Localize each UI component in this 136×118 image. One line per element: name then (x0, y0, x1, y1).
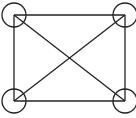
edges-group (14, 15, 125, 101)
graph-diagram (0, 0, 136, 118)
